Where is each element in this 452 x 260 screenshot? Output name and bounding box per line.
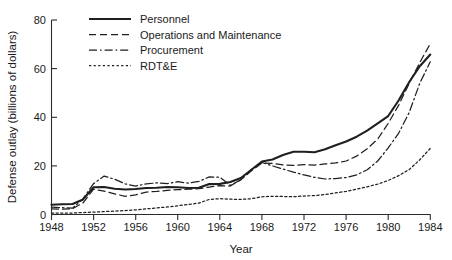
series-line-personnel (52, 55, 431, 205)
x-tick-label-1960: 1960 (165, 221, 189, 233)
x-tick-label-1968: 1968 (250, 221, 274, 233)
x-tick-label-1964: 1964 (208, 221, 232, 233)
series-line-rdte (52, 148, 431, 213)
chart-legend: Personnel Operations and Maintenance Pro… (89, 13, 281, 72)
chart-figure: 80 60 40 20 0 1948 1952 1956 1960 1964 1… (0, 0, 452, 260)
legend-label-rdte: RDT&E (140, 60, 177, 72)
y-axis-tick-labels: 80 60 40 20 0 (34, 14, 46, 221)
x-tick-label-1976: 1976 (334, 221, 358, 233)
series-line-procurement (52, 62, 431, 208)
y-tick-label-80: 80 (34, 14, 46, 26)
y-tick-label-60: 60 (34, 63, 46, 75)
x-axis-ticks (52, 215, 431, 221)
y-axis-ticks (52, 20, 58, 215)
x-axis-tick-labels: 1948 1952 1956 1960 1964 1968 1972 1976 … (39, 221, 442, 233)
x-tick-label-1948: 1948 (39, 221, 63, 233)
y-tick-label-0: 0 (40, 209, 46, 221)
legend-label-operations-and-maintenance: Operations and Maintenance (140, 29, 281, 41)
x-axis-title: Year (229, 243, 252, 255)
x-tick-label-1980: 1980 (376, 221, 400, 233)
chart-series-group (52, 44, 431, 213)
y-axis-title: Defense outlay (billions of dollars) (6, 31, 18, 204)
x-tick-label-1956: 1956 (123, 221, 147, 233)
x-tick-label-1952: 1952 (81, 221, 105, 233)
legend-label-personnel: Personnel (140, 13, 190, 25)
x-tick-label-1984: 1984 (418, 221, 442, 233)
legend-label-procurement: Procurement (140, 44, 203, 56)
x-tick-label-1972: 1972 (292, 221, 316, 233)
y-tick-label-20: 20 (34, 160, 46, 172)
y-tick-label-40: 40 (34, 111, 46, 123)
defense-outlay-line-chart: 80 60 40 20 0 1948 1952 1956 1960 1964 1… (0, 0, 452, 260)
